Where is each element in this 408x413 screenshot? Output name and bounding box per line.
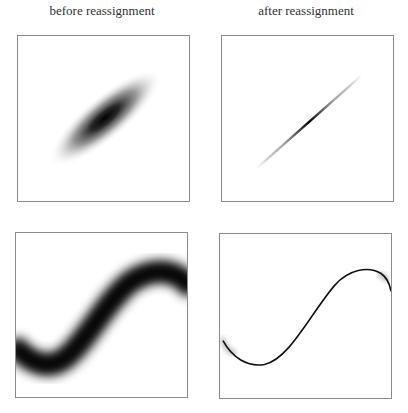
- panel-chirp-before: [17, 35, 190, 202]
- sine-curve-plot: [220, 234, 391, 398]
- panel-sine-after: [219, 233, 392, 399]
- column-title-before: before reassignment: [0, 3, 204, 19]
- chirp-blob-plot: [18, 36, 189, 201]
- column-title-after: after reassignment: [204, 3, 408, 19]
- panel-chirp-after: [221, 35, 394, 202]
- chirp-line-plot: [222, 36, 393, 201]
- sine-band-plot: [16, 233, 187, 397]
- panel-sine-before: [15, 232, 188, 398]
